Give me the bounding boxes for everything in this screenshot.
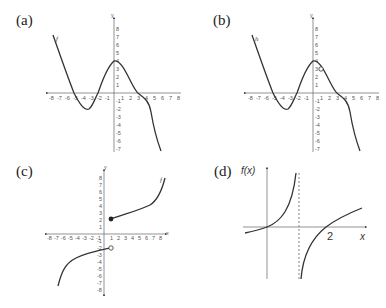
svg-text:-6: -6: [97, 273, 102, 279]
svg-text:-4: -4: [81, 95, 86, 101]
svg-text:-6: -6: [315, 138, 320, 144]
svg-text:5: 5: [138, 235, 141, 241]
svg-text:6: 6: [116, 42, 119, 48]
svg-text:6: 6: [360, 95, 363, 101]
x-axis-label: x: [359, 231, 366, 242]
x-ticks: -8-7-6-5 -4-3-2-1 1234 5678: [248, 95, 379, 101]
svg-text:-6: -6: [65, 95, 70, 101]
y-axis-label: f(x): [241, 165, 255, 176]
svg-text:-2: -2: [97, 95, 102, 101]
svg-text:-8: -8: [97, 287, 102, 293]
svg-text:5: 5: [153, 95, 156, 101]
svg-text:-2: -2: [116, 106, 121, 112]
svg-text:2: 2: [99, 217, 102, 223]
svg-text:-1: -1: [315, 98, 320, 104]
svg-text:-1: -1: [304, 95, 309, 101]
svg-text:1: 1: [315, 82, 318, 88]
svg-text:-8: -8: [47, 235, 52, 241]
svg-text:2: 2: [315, 74, 318, 80]
svg-text:5: 5: [315, 50, 318, 56]
svg-text:1: 1: [116, 82, 119, 88]
svg-text:3: 3: [137, 95, 140, 101]
svg-text:5: 5: [352, 95, 355, 101]
svg-text:5: 5: [116, 50, 119, 56]
curve-right-branch: [301, 208, 362, 279]
svg-text:-1: -1: [116, 98, 121, 104]
x-axis-label: x: [166, 230, 169, 236]
svg-text:7: 7: [99, 182, 102, 188]
svg-text:1: 1: [320, 95, 323, 101]
svg-text:4: 4: [131, 235, 134, 241]
svg-text:2: 2: [328, 95, 331, 101]
svg-text:-4: -4: [315, 122, 320, 128]
panel-a: (a) y -8-7-6-5 -4-3-2-1 1234 5678 8765 4…: [16, 12, 181, 152]
svg-text:5: 5: [99, 196, 102, 202]
panel-d: (d) f(x) x 2: [214, 163, 366, 280]
svg-text:7: 7: [315, 34, 318, 40]
panel-b-label: (b): [213, 12, 231, 29]
y-ticks: 8765 4321 -1-2-3-4 -5-6-7: [116, 26, 121, 152]
x-ticks: -8-7-6-5 -4-3-2-1 1234 5678: [47, 235, 162, 241]
svg-text:-2: -2: [296, 95, 301, 101]
panel-c: (c) y x -8-7-6-5 -4-3-2-1 1234 5678 8765…: [16, 163, 169, 295]
svg-text:-3: -3: [89, 95, 94, 101]
svg-text:-7: -7: [256, 95, 261, 101]
svg-text:3: 3: [336, 95, 339, 101]
svg-text:-2: -2: [315, 106, 320, 112]
panel-b: (b) y -8-7-6-5 -4-3-2-1 1234 5678 8765 4…: [213, 12, 379, 152]
svg-text:8: 8: [376, 95, 379, 101]
svg-text:-4: -4: [116, 122, 121, 128]
svg-text:4: 4: [99, 203, 102, 209]
svg-text:-5: -5: [315, 130, 320, 136]
y-ticks: 8765 4321 -1-2-3-4 -5-6-7: [315, 26, 320, 152]
svg-text:1: 1: [99, 224, 102, 230]
svg-text:-7: -7: [97, 280, 102, 286]
curve-f-right: [111, 178, 165, 219]
svg-text:3: 3: [124, 235, 127, 241]
svg-text:8: 8: [116, 26, 119, 32]
svg-text:7: 7: [116, 34, 119, 40]
svg-text:2: 2: [116, 74, 119, 80]
x-ticks: -8-7-6-5 -4-3-2-1 1234 5678: [49, 95, 180, 101]
svg-text:-1: -1: [97, 238, 102, 244]
svg-text:-8: -8: [49, 95, 54, 101]
svg-text:-2: -2: [89, 235, 94, 241]
svg-text:6: 6: [161, 95, 164, 101]
x-tick-2: 2: [327, 230, 333, 242]
svg-text:-3: -3: [97, 252, 102, 258]
curve-left-branch: [245, 173, 296, 233]
svg-text:-4: -4: [97, 259, 102, 265]
svg-text:-6: -6: [61, 235, 66, 241]
svg-text:-7: -7: [315, 146, 320, 152]
svg-text:-6: -6: [264, 95, 269, 101]
svg-text:-3: -3: [288, 95, 293, 101]
svg-text:-5: -5: [68, 235, 73, 241]
svg-text:2: 2: [129, 95, 132, 101]
svg-text:1: 1: [110, 235, 113, 241]
svg-text:-8: -8: [248, 95, 253, 101]
svg-text:-4: -4: [280, 95, 285, 101]
svg-text:6: 6: [145, 235, 148, 241]
panel-a-label: (a): [16, 12, 33, 29]
function-label: f: [56, 35, 59, 43]
svg-text:7: 7: [368, 95, 371, 101]
function-label: f: [160, 176, 163, 184]
svg-text:-3: -3: [315, 114, 320, 120]
y-axis-label: y: [111, 12, 114, 18]
function-label: h: [255, 35, 259, 43]
svg-text:-3: -3: [82, 235, 87, 241]
svg-text:-4: -4: [75, 235, 80, 241]
y-axis-label: y: [104, 164, 107, 170]
svg-text:7: 7: [169, 95, 172, 101]
panel-d-label: (d): [214, 163, 232, 180]
svg-text:8: 8: [177, 95, 180, 101]
y-axis-label: y: [310, 12, 313, 18]
svg-text:1: 1: [121, 95, 124, 101]
svg-text:2: 2: [117, 235, 120, 241]
svg-text:3: 3: [116, 66, 119, 72]
svg-text:-7: -7: [54, 235, 59, 241]
svg-text:8: 8: [315, 26, 318, 32]
svg-text:-6: -6: [116, 138, 121, 144]
svg-text:6: 6: [315, 42, 318, 48]
figure-canvas: (a) y -8-7-6-5 -4-3-2-1 1234 5678 8765 4…: [0, 0, 386, 308]
